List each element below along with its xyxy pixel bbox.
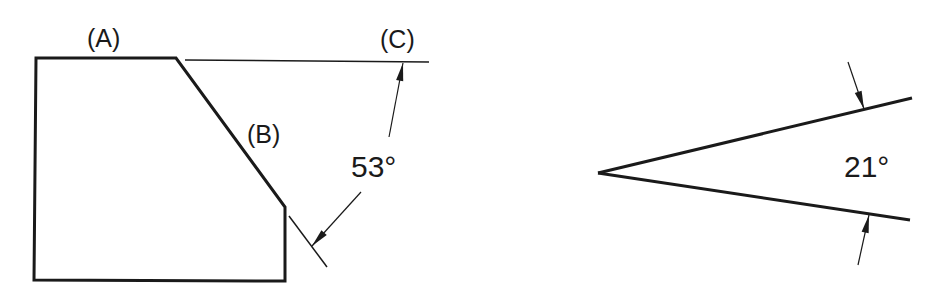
extension-line-c	[185, 60, 429, 62]
label-c: (C)	[380, 25, 415, 53]
right-view: 21°	[598, 62, 912, 265]
dimension-arrow-upper	[389, 63, 403, 137]
part-outline	[34, 58, 285, 281]
label-a: (A)	[87, 24, 120, 52]
dimension-arrow-top	[848, 62, 864, 109]
dimension-arrow-bottom	[858, 215, 869, 265]
left-view: (A) (C) (B) 53°	[34, 24, 429, 281]
dimension-arrow-lower	[312, 192, 361, 246]
angle-label-53: 53°	[351, 150, 396, 183]
technical-drawing: (A) (C) (B) 53° 21°	[0, 0, 939, 292]
label-b: (B)	[247, 120, 280, 148]
extension-line-b	[289, 216, 327, 267]
angle-label-21: 21°	[844, 150, 889, 183]
